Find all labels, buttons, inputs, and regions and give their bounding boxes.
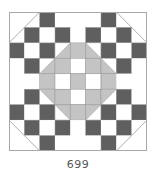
- quilt-cell-dark: [24, 27, 39, 42]
- quilt-cell-white: [132, 58, 147, 73]
- quilt-cell-white: [116, 74, 131, 89]
- quilt-cell-white: [101, 27, 116, 42]
- quilt-cell-dark: [40, 105, 55, 120]
- quilt-cell-white: [9, 136, 24, 151]
- quilt-cell-grey: [86, 58, 101, 73]
- quilt-cell-dark: [101, 12, 116, 27]
- quilt-cell-grey: [70, 105, 85, 120]
- quilt-cell-dark: [40, 12, 55, 27]
- quilt-cell-white: [70, 12, 85, 27]
- quilt-cell-grey: [40, 74, 55, 89]
- quilt-cell-grey: [55, 58, 70, 73]
- quilt-cell-grey: [55, 89, 70, 104]
- quilt-cell-white: [132, 12, 147, 27]
- quilt-cell-dark: [55, 120, 70, 135]
- quilt-cell-dark: [24, 89, 39, 104]
- quilt-cell-grey: [70, 43, 85, 58]
- quilt-cell-white: [86, 12, 101, 27]
- quilt-cell-white: [86, 136, 101, 151]
- quilt-cell-dark: [116, 120, 131, 135]
- quilt-cell-dark: [101, 105, 116, 120]
- quilt-cell-dark: [24, 58, 39, 73]
- quilt-cell-dark: [116, 27, 131, 42]
- quilt-cell-white: [55, 12, 70, 27]
- quilt-cell-white: [70, 120, 85, 135]
- quilt-cell-dark: [40, 136, 55, 151]
- quilt-cell-white: [24, 74, 39, 89]
- quilt-cell-dark: [101, 136, 116, 151]
- quilt-cell-dark: [132, 105, 147, 120]
- quilt-cell-white: [9, 58, 24, 73]
- quilt-cell-white: [24, 43, 39, 58]
- quilt-cell-white: [70, 27, 85, 42]
- quilt-cell-dark: [9, 105, 24, 120]
- quilt-cell-white: [132, 74, 147, 89]
- quilt-cell-white: [132, 89, 147, 104]
- quilt-cell-white: [70, 89, 85, 104]
- quilt-cell-white: [9, 12, 24, 27]
- quilt-cell-dark: [86, 120, 101, 135]
- quilt-cell-dark: [86, 27, 101, 42]
- quilt-cell-white: [24, 105, 39, 120]
- quilt-cell-dark: [132, 43, 147, 58]
- quilt-cell-dark: [116, 89, 131, 104]
- quilt-cell-white: [55, 74, 70, 89]
- quilt-cell-dark: [116, 58, 131, 73]
- quilt-cell-dark: [101, 43, 116, 58]
- quilt-cell-dark: [24, 120, 39, 135]
- quilt-cell-white: [70, 136, 85, 151]
- quilt-cell-white: [40, 120, 55, 135]
- quilt-cell-dark: [40, 43, 55, 58]
- quilt-cell-white: [70, 58, 85, 73]
- quilt-cell-white: [86, 74, 101, 89]
- quilt-cell-white: [101, 120, 116, 135]
- quilt-cell-white: [116, 105, 131, 120]
- quilt-cell-grey: [101, 74, 116, 89]
- quilt-cell-dark: [55, 27, 70, 42]
- quilt-cell-grey: [70, 74, 85, 89]
- quilt-cell-white: [116, 43, 131, 58]
- quilt-cell-white: [55, 136, 70, 151]
- quilt-cell-grey: [86, 89, 101, 104]
- quilt-cell-white: [40, 27, 55, 42]
- quilt-cell-white: [9, 74, 24, 89]
- quilt-block: [9, 12, 147, 151]
- quilt-cell-white: [9, 89, 24, 104]
- cells-layer: [9, 12, 147, 151]
- quilt-cell-white: [132, 136, 147, 151]
- block-number-label: 699: [0, 158, 156, 171]
- quilt-cell-dark: [9, 43, 24, 58]
